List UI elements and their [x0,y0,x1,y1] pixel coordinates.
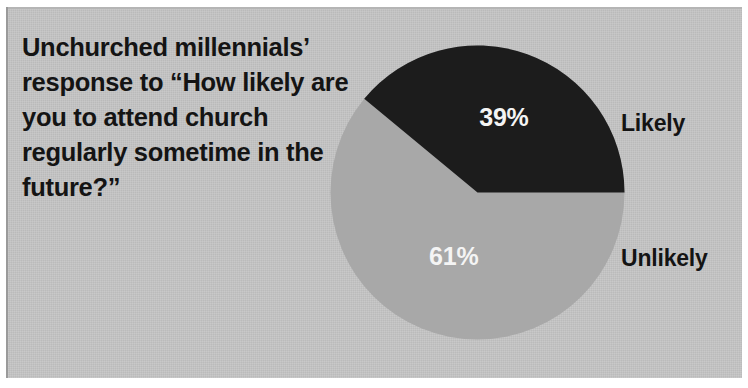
panel-left-rule [6,7,8,378]
panel-top-rule [6,7,742,9]
chart-title: Unchurched millennials’ response to “How… [22,30,352,205]
pie-value-likely: 39% [479,103,528,131]
pie-value-unlikely: 61% [429,242,478,270]
legend-label-likely: Likely [621,110,685,137]
legend-label-unlikely: Unlikely [621,245,708,272]
pie-chart-svg: 39% 61% [330,45,625,340]
pie-chart: 39% 61% [330,45,625,340]
chart-screenshot: Unchurched millennials’ response to “How… [0,0,748,388]
